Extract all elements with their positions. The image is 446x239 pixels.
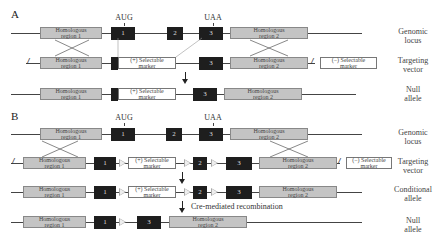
loxp-site [211, 159, 218, 167]
homologous-region-1: Homologousregion 1 [23, 216, 86, 228]
exon-1: 1 [94, 186, 116, 199]
start-codon-label: AUG [112, 13, 136, 22]
homologous-region-1: Homologousregion 1 [40, 27, 102, 39]
positive-selectable-marker: (+) Selectablemarker [118, 57, 176, 69]
loxp-site [211, 188, 218, 196]
row-label-genomic-locus: Genomiclocus [378, 128, 446, 146]
down-arrow-head [179, 208, 185, 213]
start-codon-tick [124, 123, 125, 126]
homologous-region-1: Homologousregion 1 [40, 57, 102, 69]
homologous-region-2: Homologousregion 2 [230, 128, 308, 140]
exon-3: 3 [199, 128, 223, 141]
exon-2: 2 [166, 128, 182, 141]
negative-selectable-marker: (−) Selectablemarker [320, 57, 377, 69]
down-arrow-head [182, 79, 188, 84]
panel-b-label: B [11, 110, 18, 122]
exon-1-fragment [111, 57, 118, 70]
row-label-genomic-locus: Genomiclocus [378, 27, 446, 45]
loxp-site [119, 188, 126, 196]
row-label-targeting-vector: Targetingvector [378, 56, 446, 74]
exon-2: 2 [193, 186, 207, 199]
exon-3: 3 [137, 216, 161, 229]
exon-3: 3 [226, 186, 252, 199]
homologous-region-2: Homologousregion 2 [169, 216, 247, 228]
homologous-region-1: Homologousregion 1 [23, 186, 86, 198]
exon-3: 3 [193, 88, 217, 101]
loxp-site [184, 159, 191, 167]
exon-3: 3 [226, 157, 252, 170]
positive-selectable-marker: (+) Selectablemarker [128, 157, 176, 169]
exon-1: 1 [111, 128, 135, 141]
exon-1: 1 [94, 216, 116, 229]
exon-1: 1 [94, 157, 116, 170]
homologous-region-2: Homologousregion 2 [259, 186, 337, 198]
stop-codon-tick [213, 23, 214, 26]
homologous-region-1: Homologousregion 1 [40, 128, 102, 140]
homologous-region-2: Homologousregion 2 [230, 27, 308, 39]
homologous-region-2: Homologousregion 2 [259, 157, 337, 169]
crossover-mark-right [270, 141, 308, 157]
positive-selectable-marker: (+) Selectablemarker [128, 186, 176, 198]
replacement-guide-lines [110, 38, 210, 58]
stop-codon-label: UAA [201, 113, 225, 122]
start-codon-tick [124, 23, 125, 26]
start-codon-label: AUG [112, 113, 136, 122]
loxp-site [119, 218, 126, 226]
stop-codon-label: UAA [201, 13, 225, 22]
crossover-mark-right [250, 40, 288, 56]
positive-selectable-marker: (+) Selectablemarker [118, 88, 176, 100]
exon-2: 2 [193, 157, 207, 170]
crossover-mark-left [42, 141, 78, 157]
crossover-mark-left [55, 40, 89, 56]
homologous-region-1: Homologousregion 1 [40, 88, 102, 100]
exon-1-fragment [111, 88, 118, 101]
loxp-site [119, 159, 126, 167]
row-label-conditional-allele: Conditionalallele [378, 185, 446, 203]
row-label-targeting-vector: Targetingvector [378, 157, 446, 175]
cre-recombination-note: Cre-mediated recombination [191, 202, 283, 211]
homologous-region-2: Homologousregion 2 [230, 57, 308, 69]
panel-a-label: A [11, 8, 19, 20]
exon-3: 3 [199, 57, 223, 70]
homologous-region-2: Homologousregion 2 [224, 88, 302, 100]
down-arrow-head [179, 179, 185, 184]
row-label-null-allele: Nullallele [378, 85, 446, 103]
row-label-null-allele: Nullallele [378, 216, 446, 234]
homologous-region-1: Homologousregion 1 [23, 157, 86, 169]
stop-codon-tick [213, 123, 214, 126]
loxp-site [184, 188, 191, 196]
